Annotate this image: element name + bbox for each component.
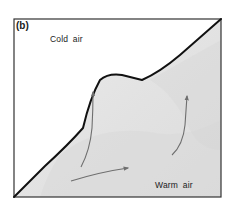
diagram-figure: (b) Cold air Warm air [0, 0, 239, 210]
warm-air-label: Warm air [155, 181, 193, 190]
cold-air-label: Cold air [50, 35, 83, 44]
diagram-canvas [0, 0, 239, 210]
panel-label: (b) [16, 21, 29, 31]
